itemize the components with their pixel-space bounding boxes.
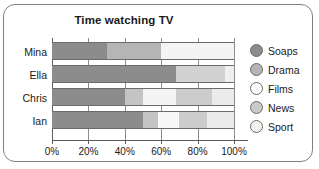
chart-card: Time watching TV MinaEllaChrisIan 0%20%4… (3, 4, 313, 162)
bar-segment (207, 112, 234, 128)
bar-series-group: MinaEllaChrisIan (52, 38, 234, 140)
legend-swatch-icon (250, 120, 263, 133)
bar-segment (158, 112, 180, 128)
legend-swatch-icon (250, 101, 263, 114)
bar-segment (143, 112, 158, 128)
y-axis-category-label: Ian (3, 112, 47, 130)
x-axis-tick (161, 140, 162, 144)
x-axis-tick-label: 20% (78, 146, 98, 157)
bar-segment (52, 112, 143, 128)
bar-segment (107, 43, 162, 59)
bar-segment (143, 89, 176, 105)
bar-row: Ian (52, 111, 234, 129)
bar-segment (52, 43, 107, 59)
x-axis-tick (88, 140, 89, 144)
y-axis-category-label: Mina (3, 43, 47, 61)
bar-row: Mina (52, 42, 234, 60)
legend-item[interactable]: Drama (250, 60, 300, 79)
bar-segment (52, 89, 125, 105)
bar-segment (212, 89, 234, 105)
x-axis-tick-label: 60% (151, 146, 171, 157)
x-axis-tick (125, 140, 126, 144)
bar-segment (176, 66, 225, 82)
x-axis-tick-label: 100% (221, 146, 247, 157)
legend-label: Sport (268, 121, 293, 133)
legend-swatch-icon (250, 63, 263, 76)
x-axis-tick (234, 140, 235, 144)
x-axis-tick (52, 140, 53, 144)
legend-swatch-icon (250, 44, 263, 57)
x-axis-tick-label: 0% (45, 146, 59, 157)
plot-area: MinaEllaChrisIan (52, 38, 234, 140)
chart-legend: SoapsDramaFilmsNewsSport (250, 41, 300, 136)
bar-segment (176, 89, 212, 105)
x-axis-tick (198, 140, 199, 144)
legend-label: Films (268, 83, 293, 95)
legend-label: News (268, 102, 294, 114)
legend-swatch-icon (250, 82, 263, 95)
bar-segment (52, 66, 176, 82)
x-axis-tick-label: 80% (188, 146, 208, 157)
gridline (234, 38, 235, 140)
legend-label: Drama (268, 64, 300, 76)
bar-segment (225, 66, 234, 82)
chart-title: Time watching TV (4, 14, 244, 26)
legend-label: Soaps (268, 45, 298, 57)
bar-row: Ella (52, 65, 234, 83)
bar-row: Chris (52, 88, 234, 106)
bar-segment (125, 89, 143, 105)
y-axis-category-label: Ella (3, 66, 47, 84)
y-axis-category-label: Chris (3, 89, 47, 107)
legend-item[interactable]: News (250, 98, 300, 117)
bar-segment (161, 43, 234, 59)
x-axis-line (52, 140, 248, 141)
x-axis-tick-label: 40% (115, 146, 135, 157)
legend-item[interactable]: Soaps (250, 41, 300, 60)
legend-item[interactable]: Sport (250, 117, 300, 136)
legend-item[interactable]: Films (250, 79, 300, 98)
bar-segment (179, 112, 206, 128)
